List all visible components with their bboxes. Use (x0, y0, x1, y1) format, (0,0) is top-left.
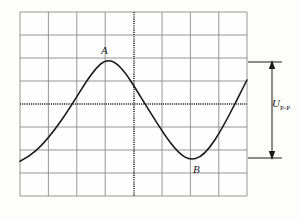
peak-to-peak-symbol: U (272, 97, 280, 109)
peak-to-peak-label: UP-P (272, 98, 290, 112)
peak-to-peak-subscript: P-P (280, 104, 290, 112)
trough-label-b: B (193, 164, 200, 175)
arrow-head-up-icon (269, 60, 275, 69)
oscilloscope-canvas (0, 0, 302, 219)
arrow-head-down-icon (269, 151, 275, 160)
oscilloscope-figure: A B UP-P (0, 0, 302, 219)
crest-label-a: A (101, 45, 108, 56)
